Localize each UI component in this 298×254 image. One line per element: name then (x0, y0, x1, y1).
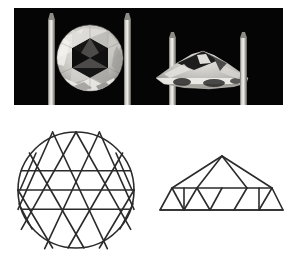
rose-cut-crown-facet-diagram (18, 132, 134, 249)
pavilion-band-facet-lines (172, 188, 272, 210)
tweezer-prong-right-profile (240, 32, 247, 105)
figure-root (0, 0, 298, 254)
diagrams-canvas (0, 112, 298, 254)
gemstone-photograph (14, 8, 283, 105)
tweezer-prong-left (48, 13, 55, 105)
crown-facet-lines (197, 156, 247, 188)
rose-cut-profile-facet-diagram (160, 156, 283, 210)
photograph-canvas (14, 8, 283, 105)
tweezer-prong-right (124, 13, 131, 105)
facet-diagrams (0, 112, 298, 254)
